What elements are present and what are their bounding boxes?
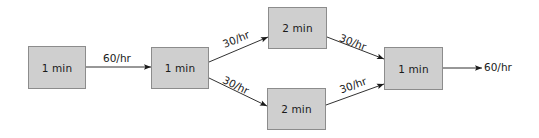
node-step-2: 1 min <box>151 47 209 89</box>
node-step-3-upper-label: 2 min <box>282 22 312 34</box>
node-step-3-lower-label: 2 min <box>281 103 311 115</box>
process-flow-diagram: 1 min 1 min 2 min 2 min 1 min 60/hr 30/h… <box>0 0 539 138</box>
edge-label-output: 60/hr <box>484 61 512 73</box>
edge-label-n1-n2: 60/hr <box>103 52 131 64</box>
node-step-3-upper: 2 min <box>268 7 327 49</box>
node-step-4-label: 1 min <box>398 63 428 75</box>
node-step-4: 1 min <box>384 47 443 90</box>
node-step-2-label: 1 min <box>165 62 195 74</box>
node-step-1-label: 1 min <box>42 62 72 74</box>
node-step-1: 1 min <box>28 46 86 89</box>
node-step-3-lower: 2 min <box>267 88 326 130</box>
